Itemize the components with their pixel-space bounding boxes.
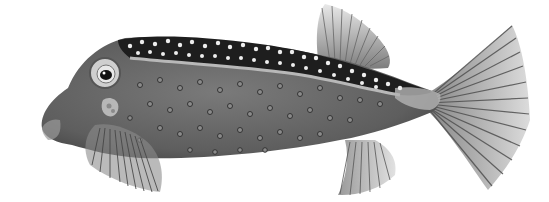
boxfish-illustration: Boxfish illustration xyxy=(0,0,549,202)
caudal-fin xyxy=(425,25,530,190)
eye xyxy=(90,58,120,88)
fish-drawing xyxy=(0,0,549,202)
anal-fin xyxy=(338,140,396,195)
